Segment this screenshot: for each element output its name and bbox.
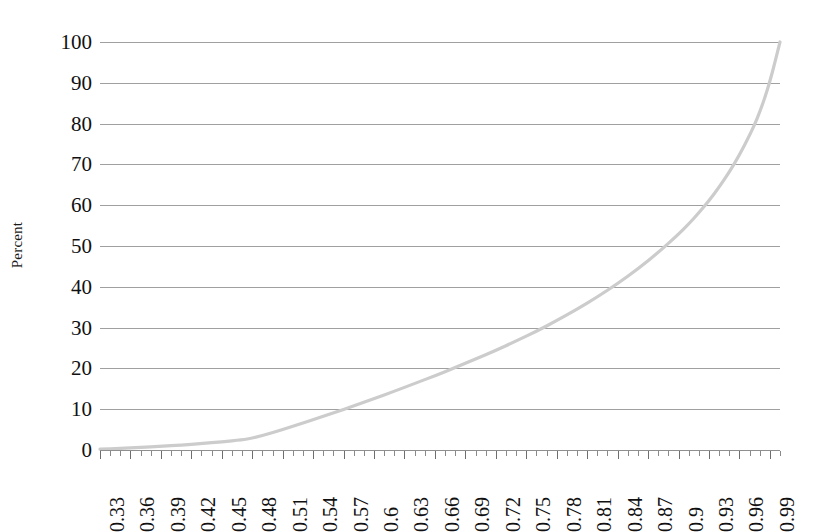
x-axis-minor-tick <box>354 451 355 456</box>
x-axis-minor-tick <box>242 451 243 456</box>
y-axis-tick-label: 30 <box>30 317 92 338</box>
x-axis-major-tick <box>130 451 131 459</box>
x-axis-minor-tick <box>577 451 578 456</box>
y-axis-tick-label: 10 <box>30 399 92 420</box>
x-axis-minor-tick <box>303 451 304 456</box>
y-axis-tick-label: 60 <box>30 195 92 216</box>
x-axis-minor-tick <box>181 451 182 456</box>
y-axis-tick-label: 20 <box>30 358 92 379</box>
x-axis-major-tick <box>496 451 497 459</box>
x-axis-tick-labels: 0.330.360.390.420.450.480.510.540.570.60… <box>100 462 780 532</box>
x-axis-major-tick <box>465 451 466 459</box>
x-axis-major-tick <box>526 451 527 459</box>
x-axis-minor-tick <box>638 451 639 456</box>
x-axis-tick-label: 0.42 <box>198 462 218 532</box>
x-axis-minor-tick <box>262 451 263 456</box>
x-axis-minor-tick <box>415 451 416 456</box>
x-axis-minor-tick <box>658 451 659 456</box>
x-axis-major-tick <box>679 451 680 459</box>
x-axis-tick-label: 0.63 <box>411 462 431 532</box>
x-axis-minor-tick <box>486 451 487 456</box>
data-series-line <box>100 42 780 450</box>
x-axis-minor-tick <box>729 451 730 456</box>
x-axis-minor-tick <box>273 451 274 456</box>
x-axis-minor-tick <box>628 451 629 456</box>
x-axis-minor-tick <box>212 451 213 456</box>
x-axis-minor-tick <box>171 451 172 456</box>
x-axis-minor-tick <box>689 451 690 456</box>
x-axis-tick-label: 0.6 <box>381 462 401 532</box>
y-axis-tick-label: 40 <box>30 276 92 297</box>
x-axis-minor-tick <box>719 451 720 456</box>
x-axis-minor-tick <box>607 451 608 456</box>
x-axis-tick-label: 0.36 <box>137 462 157 532</box>
x-axis-major-tick <box>283 451 284 459</box>
x-axis-major-tick <box>709 451 710 459</box>
x-axis-minor-tick <box>750 451 751 456</box>
x-axis-major-tick <box>374 451 375 459</box>
x-axis-tick-label: 0.57 <box>351 462 371 532</box>
x-axis-minor-tick <box>699 451 700 456</box>
x-axis-tick-label: 0.96 <box>746 462 766 532</box>
x-axis-minor-tick <box>476 451 477 456</box>
y-axis-tick-label: 0 <box>30 440 92 461</box>
x-axis-minor-tick <box>141 451 142 456</box>
y-axis-tick-label: 100 <box>30 32 92 53</box>
x-axis-minor-tick <box>547 451 548 456</box>
y-axis-tick-label: 70 <box>30 154 92 175</box>
y-axis-tick-label: 50 <box>30 236 92 257</box>
x-axis-major-tick <box>100 451 101 459</box>
x-axis-minor-tick <box>455 451 456 456</box>
x-axis-tick-label: 0.51 <box>290 462 310 532</box>
x-axis-tick-label: 0.99 <box>777 462 797 532</box>
x-axis-tick-label: 0.54 <box>320 462 340 532</box>
x-axis-tick-label: 0.45 <box>229 462 249 532</box>
x-axis-minor-tick <box>516 451 517 456</box>
x-axis-minor-tick <box>597 451 598 456</box>
x-axis-minor-tick <box>323 451 324 456</box>
x-axis-major-tick <box>557 451 558 459</box>
y-axis-tick-label: 90 <box>30 72 92 93</box>
x-axis-tick-label: 0.84 <box>625 462 645 532</box>
y-axis-tick-label: 80 <box>30 113 92 134</box>
x-axis-minor-tick <box>201 451 202 456</box>
x-axis-major-tick <box>313 451 314 459</box>
x-axis-minor-tick <box>760 451 761 456</box>
x-axis-tick-label: 0.9 <box>686 462 706 532</box>
x-axis-tick-label: 0.33 <box>107 462 127 532</box>
x-axis-major-tick <box>252 451 253 459</box>
x-axis-tick-label: 0.66 <box>442 462 462 532</box>
x-axis-minor-tick <box>151 451 152 456</box>
x-axis-minor-tick <box>536 451 537 456</box>
x-axis-tick-label: 0.39 <box>168 462 188 532</box>
x-axis-major-tick <box>770 451 771 459</box>
x-axis-major-tick <box>161 451 162 459</box>
x-axis-ticks <box>100 451 780 461</box>
x-axis-tick-label: 0.72 <box>503 462 523 532</box>
x-axis-minor-tick <box>120 451 121 456</box>
x-axis-major-tick <box>739 451 740 459</box>
x-axis-minor-tick <box>384 451 385 456</box>
x-axis-major-tick <box>191 451 192 459</box>
x-axis-major-tick <box>404 451 405 459</box>
plot-area <box>100 42 780 450</box>
x-axis-major-tick <box>222 451 223 459</box>
x-axis-minor-tick <box>425 451 426 456</box>
x-axis-major-tick <box>435 451 436 459</box>
x-axis-minor-tick <box>780 451 781 456</box>
x-axis-major-tick <box>587 451 588 459</box>
x-axis-major-tick <box>618 451 619 459</box>
x-axis-minor-tick <box>110 451 111 456</box>
x-axis-minor-tick <box>506 451 507 456</box>
x-axis-tick-label: 0.75 <box>533 462 553 532</box>
x-axis-tick-label: 0.87 <box>655 462 675 532</box>
x-axis-minor-tick <box>333 451 334 456</box>
x-axis-minor-tick <box>232 451 233 456</box>
x-axis-tick-label: 0.93 <box>716 462 736 532</box>
x-axis-minor-tick <box>394 451 395 456</box>
x-axis-tick-label: 0.78 <box>564 462 584 532</box>
y-axis-title-label: Percent <box>9 222 26 268</box>
x-axis-minor-tick <box>364 451 365 456</box>
x-axis-minor-tick <box>668 451 669 456</box>
